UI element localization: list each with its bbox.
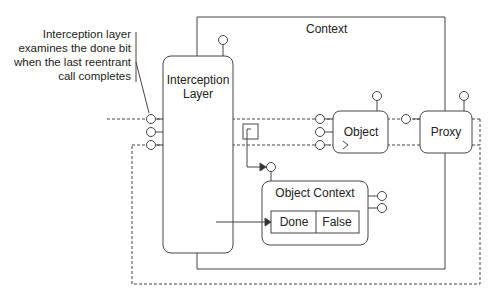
svg-text:examines the done bit: examines the done bit bbox=[18, 42, 131, 54]
object-left-interfaces bbox=[316, 115, 334, 150]
annotation-pointer bbox=[136, 62, 149, 113]
interception-layer-label-2: Layer bbox=[183, 87, 213, 101]
object-context-label: Object Context bbox=[275, 186, 355, 200]
svg-text:Interception layer: Interception layer bbox=[43, 28, 131, 40]
interface-lollipop-icon bbox=[219, 36, 228, 45]
interface-lollipop-icon bbox=[267, 163, 276, 172]
object-label: Object bbox=[344, 125, 379, 139]
object-context-right-interfaces bbox=[368, 192, 387, 213]
done-bit-setter-box bbox=[243, 124, 258, 139]
done-key: Done bbox=[280, 215, 309, 229]
annotation-text: Interception layer examines the done bit… bbox=[13, 28, 132, 82]
interface-lollipop-icon bbox=[460, 92, 469, 101]
svg-text:call completes: call completes bbox=[58, 70, 131, 82]
done-value: False bbox=[322, 215, 352, 229]
diagram-canvas: Interception layer examines the done bit… bbox=[0, 0, 494, 302]
svg-text:when the last reentrant: when the last reentrant bbox=[13, 56, 132, 68]
proxy-label: Proxy bbox=[431, 125, 462, 139]
proxy-interface-lollipop-icon bbox=[402, 115, 411, 124]
arrow-head bbox=[260, 163, 266, 171]
context-label: Context bbox=[306, 22, 348, 36]
interface-lollipop-icon bbox=[373, 92, 382, 101]
interception-layer-label: Interception bbox=[167, 73, 230, 87]
interception-left-interfaces bbox=[147, 115, 164, 150]
